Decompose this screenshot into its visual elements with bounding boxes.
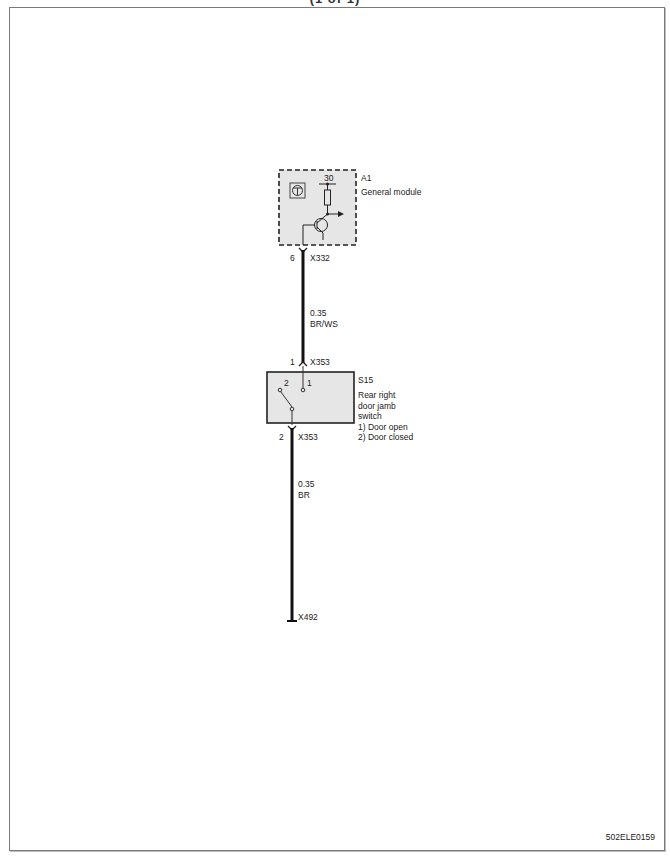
module-id-label: A1 bbox=[361, 173, 371, 183]
contact-2-label: 2 bbox=[284, 378, 289, 388]
wire2-color-label: BR bbox=[298, 490, 310, 500]
switch-id-label: S15 bbox=[358, 375, 373, 385]
wire1-gauge-label: 0.35 bbox=[310, 308, 327, 318]
connector-x332-label: X332 bbox=[310, 253, 330, 263]
wiring-diagram bbox=[0, 0, 670, 857]
document-id: 502ELE0159 bbox=[606, 832, 655, 842]
ground-x492-label: X492 bbox=[298, 612, 318, 622]
module-symbol-icon bbox=[290, 183, 305, 198]
pin-2-label: 2 bbox=[279, 432, 284, 442]
terminal-30-label: 30 bbox=[324, 173, 333, 183]
switch-name-line-2: door jamb bbox=[358, 401, 413, 412]
switch-state-1: 1) Door open bbox=[358, 422, 413, 433]
switch-name-line-1: Rear right bbox=[358, 390, 413, 401]
general-module-box bbox=[279, 170, 356, 245]
contact-1-label: 1 bbox=[307, 378, 312, 388]
connector-x353-bottom-label: X353 bbox=[298, 432, 318, 442]
wire2-gauge-label: 0.35 bbox=[298, 479, 315, 489]
switch-description: Rear right door jamb switch 1) Door open… bbox=[358, 390, 413, 443]
switch-state-2: 2) Door closed bbox=[358, 432, 413, 443]
connector-x353-top-icon bbox=[299, 362, 307, 366]
wire1-color-label: BR/WS bbox=[310, 319, 338, 329]
connector-x353-top-label: X353 bbox=[310, 357, 330, 367]
pin-6-label: 6 bbox=[290, 253, 295, 263]
switch-name-line-3: switch bbox=[358, 411, 413, 422]
pin-1-label: 1 bbox=[290, 357, 295, 367]
module-name-label: General module bbox=[361, 187, 421, 197]
